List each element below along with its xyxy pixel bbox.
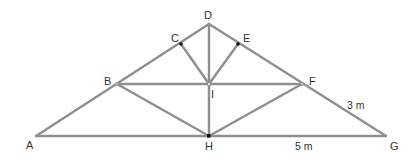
member-AD (36, 24, 209, 136)
label-F: F (309, 75, 316, 87)
joint-C-dot (179, 42, 183, 46)
label-B: B (104, 75, 111, 87)
member-DG (209, 24, 386, 136)
label-D: D (204, 9, 212, 21)
member-FH (209, 84, 302, 136)
dimension-HG: 5 m (295, 140, 313, 152)
label-I: I (211, 88, 214, 100)
label-G: G (390, 140, 399, 152)
label-H: H (205, 140, 213, 152)
label-C: C (171, 32, 179, 44)
truss-diagram: A B C D E F G H I 3 m 5 m (0, 0, 416, 163)
dimension-FG: 3 m (347, 99, 365, 111)
member-EI (209, 44, 238, 84)
joint-B-ring (116, 83, 119, 86)
label-A: A (26, 139, 34, 151)
member-BH (117, 84, 209, 136)
joint-I-ring (207, 82, 210, 85)
member-CI (181, 44, 209, 84)
dimension-labels: 3 m 5 m (295, 99, 365, 152)
label-E: E (243, 32, 250, 44)
joint-E-dot (236, 42, 240, 46)
joint-H-dot (207, 134, 211, 138)
joint-F-ring (301, 83, 304, 86)
truss-members (36, 24, 386, 136)
